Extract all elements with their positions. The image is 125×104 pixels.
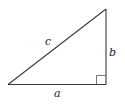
right-angle-marker-icon — [97, 76, 107, 85]
horizontal-leg-label: a — [54, 87, 61, 100]
side-c-hypotenuse — [8, 9, 106, 85]
hypotenuse-label: c — [45, 35, 51, 48]
vertical-leg-label: b — [109, 46, 116, 59]
right-triangle-diagram: c b a — [0, 0, 125, 104]
